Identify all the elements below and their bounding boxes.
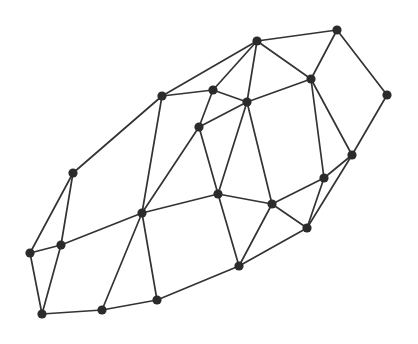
graph-node bbox=[306, 74, 315, 83]
graph-node bbox=[382, 90, 391, 99]
graph-node bbox=[267, 199, 276, 208]
network-graph bbox=[0, 0, 418, 344]
graph-node bbox=[56, 240, 65, 249]
graph-node bbox=[252, 36, 261, 45]
graph-node bbox=[213, 189, 222, 198]
background bbox=[0, 0, 418, 344]
graph-node bbox=[347, 150, 356, 159]
graph-node bbox=[157, 91, 166, 100]
graph-node bbox=[97, 305, 106, 314]
graph-node bbox=[194, 122, 203, 131]
graph-node bbox=[332, 25, 341, 34]
graph-node bbox=[68, 168, 77, 177]
graph-node bbox=[234, 261, 243, 270]
graph-node bbox=[152, 295, 161, 304]
graph-node bbox=[25, 248, 34, 257]
graph-node bbox=[37, 309, 46, 318]
graph-node bbox=[208, 85, 217, 94]
graph-node bbox=[302, 223, 311, 232]
graph-node bbox=[137, 208, 146, 217]
graph-node bbox=[319, 173, 328, 182]
graph-node bbox=[242, 97, 251, 106]
